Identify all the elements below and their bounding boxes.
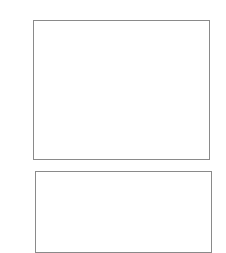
cell-panel-lower xyxy=(35,171,212,253)
cell-panel-upper xyxy=(33,20,210,160)
cell-mosaic-upper xyxy=(34,21,209,159)
cell-mosaic-lower xyxy=(36,172,211,252)
